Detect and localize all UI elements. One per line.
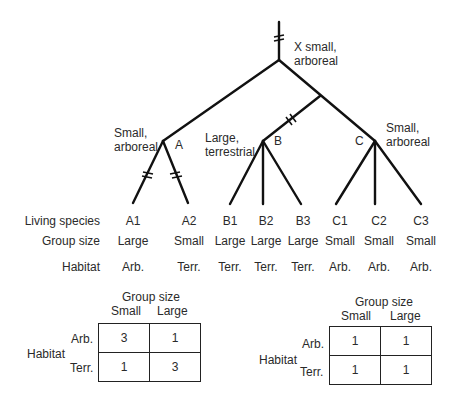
table1-title: Group size — [122, 290, 180, 304]
habitat-label: Habitat — [0, 260, 100, 274]
table2-cell: 1 — [381, 356, 432, 385]
table1-cell: 1 — [150, 324, 201, 353]
contingency-table-2: 11 11 — [329, 326, 432, 385]
clade-c-label: Small, arboreal — [386, 121, 430, 149]
table2-cell: 1 — [330, 356, 381, 385]
clade-a-name: A — [175, 138, 183, 152]
table1-row-terr: Terr. — [70, 361, 93, 375]
table1-row-title: Habitat — [27, 347, 65, 361]
living-species-label: Living species — [0, 214, 100, 228]
table2-cell: 1 — [381, 327, 432, 356]
species-habitat: Arb. — [318, 260, 362, 274]
table2-row-terr: Terr. — [300, 365, 323, 379]
table2-cell: 1 — [330, 327, 381, 356]
root-label-line2: arboreal — [294, 54, 338, 68]
table2-col-small: Small — [341, 309, 371, 323]
phylogenetic-tree — [0, 0, 466, 230]
species-group-size: Small — [167, 234, 211, 248]
clade-c-name: C — [355, 134, 364, 148]
clade-b-label-line2: terrestrial — [205, 145, 255, 159]
table1-row-arb: Arb. — [71, 332, 93, 346]
clade-b-label-line1: Large, — [205, 131, 255, 145]
table2-row-title: Habitat — [259, 353, 297, 367]
table2-title: Group size — [355, 295, 413, 309]
clade-b-label: Large, terrestrial — [205, 131, 255, 159]
clade-a-label-line2: arboreal — [114, 140, 158, 154]
table2-col-large: Large — [390, 309, 421, 323]
table1-cell: 3 — [99, 324, 150, 353]
root-label: X small, arboreal — [294, 40, 338, 68]
species-habitat: Arb. — [399, 260, 443, 274]
species-name: A2 — [167, 214, 211, 228]
species-group-size: Small — [318, 234, 362, 248]
clade-b-name: B — [274, 134, 282, 148]
species-name: C2 — [357, 214, 401, 228]
species-habitat: Arb. — [111, 260, 155, 274]
species-habitat: Arb. — [357, 260, 401, 274]
species-name: C1 — [318, 214, 362, 228]
contingency-table-1: 31 13 — [98, 323, 201, 382]
table1-col-large: Large — [157, 304, 188, 318]
table1-cell: 3 — [150, 353, 201, 382]
species-habitat: Terr. — [167, 260, 211, 274]
species-group-size: Small — [357, 234, 401, 248]
clade-a-label: Small, arboreal — [114, 126, 158, 154]
table2-row-arb: Arb. — [302, 337, 324, 351]
clade-a-label-line1: Small, — [114, 126, 158, 140]
table1-cell: 1 — [99, 353, 150, 382]
clade-c-label-line1: Small, — [386, 121, 430, 135]
clade-c-label-line2: arboreal — [386, 135, 430, 149]
species-name: A1 — [111, 214, 155, 228]
species-group-size: Small — [399, 234, 443, 248]
group-size-label: Group size — [0, 234, 100, 248]
table1-col-small: Small — [111, 304, 141, 318]
species-name: C3 — [399, 214, 443, 228]
species-group-size: Large — [111, 234, 155, 248]
root-label-line1: X small, — [294, 40, 338, 54]
